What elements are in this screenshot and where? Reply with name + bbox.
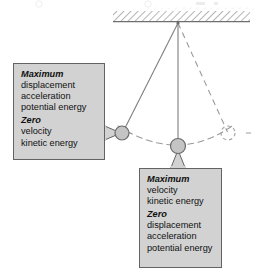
string-left (123, 23, 179, 133)
callout-bottom-max-item-1: kinetic energy (147, 196, 215, 207)
scan-artifacts (36, 1, 254, 9)
callout-left-max-item-0: displacement (21, 80, 98, 91)
pendulum-energy-figure: Maximum displacement acceleration potent… (0, 0, 261, 276)
bob-lowest-point (171, 139, 186, 154)
callout-left-zero-item-1: kinetic energy (21, 138, 98, 149)
callout-bottom-zero-item-2: potential energy (147, 243, 215, 254)
support-ceiling (113, 11, 250, 22)
callout-left-max-item-1: acceleration (21, 91, 98, 102)
callout-bottom-zero-item-1: acceleration (147, 231, 215, 242)
callout-left-zero-item-0: velocity (21, 126, 98, 137)
callout-left-extreme: Maximum displacement acceleration potent… (13, 63, 105, 160)
bob-left-extreme (115, 126, 129, 140)
callout-lowest-point: Maximum velocity kinetic energy Zero dis… (139, 168, 222, 268)
callout-left-max-heading: Maximum (21, 69, 98, 80)
callout-bottom-zero-item-0: displacement (147, 220, 215, 231)
callout-left-max-item-2: potential energy (21, 102, 98, 113)
callout-bottom-zero-heading: Zero (147, 209, 215, 220)
callout-bottom-max-heading: Maximum (147, 174, 215, 185)
pivot-point (176, 21, 179, 24)
callout-left-zero-heading: Zero (21, 115, 98, 126)
callout-bottom-max-item-0: velocity (147, 185, 215, 196)
string-right (178, 23, 228, 132)
